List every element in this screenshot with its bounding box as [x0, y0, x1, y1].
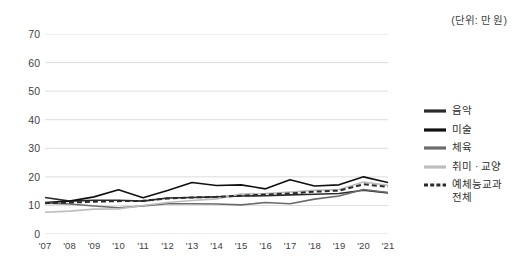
legend-swatch-icon [424, 161, 446, 173]
x-axis-tick-label: '21 [382, 240, 394, 251]
line-chart-svg [45, 34, 388, 234]
chart-legend: 음악미술체육취미 · 교양예체능교과 전체 [424, 104, 517, 209]
y-axis: 010203040506070 [0, 34, 40, 234]
legend-item-4[interactable]: 예체능교과 전체 [424, 178, 517, 203]
legend-label: 미술 [452, 123, 472, 136]
chart-root: (단위: 만 원) 010203040506070 '07'08'09'10'1… [0, 0, 517, 264]
y-axis-tick-label: 20 [0, 171, 40, 183]
plot-area [45, 34, 388, 234]
y-axis-tick-label: 30 [0, 142, 40, 154]
x-axis-tick-label: '15 [235, 240, 247, 251]
y-axis-tick-label: 60 [0, 57, 40, 69]
unit-caption: (단위: 만 원) [451, 12, 507, 27]
x-axis-tick-label: '18 [308, 240, 320, 251]
x-axis-tick-label: '12 [161, 240, 173, 251]
y-axis-tick-label: 70 [0, 28, 40, 40]
legend-swatch-icon [424, 179, 446, 191]
legend-item-0[interactable]: 음악 [424, 104, 517, 117]
x-axis-tick-label: '09 [88, 240, 100, 251]
x-axis-tick-label: '20 [357, 240, 369, 251]
legend-swatch-icon [424, 124, 446, 136]
legend-label: 체육 [452, 141, 472, 154]
x-axis-tick-label: '13 [186, 240, 198, 251]
legend-item-1[interactable]: 미술 [424, 123, 517, 136]
y-axis-tick-label: 0 [0, 228, 40, 240]
y-axis-tick-label: 10 [0, 199, 40, 211]
y-axis-tick-label: 40 [0, 114, 40, 126]
legend-label: 취미 · 교양 [452, 160, 501, 173]
legend-swatch-icon [424, 105, 446, 117]
legend-swatch-icon [424, 142, 446, 154]
legend-item-2[interactable]: 체육 [424, 141, 517, 154]
legend-label: 예체능교과 전체 [452, 178, 502, 203]
legend-item-3[interactable]: 취미 · 교양 [424, 160, 517, 173]
x-axis-tick-label: '10 [112, 240, 124, 251]
x-axis-tick-label: '11 [137, 240, 149, 251]
y-axis-tick-label: 50 [0, 85, 40, 97]
x-axis-tick-label: '08 [63, 240, 75, 251]
x-axis-tick-label: '14 [210, 240, 222, 251]
x-axis: '07'08'09'10'11'12'13'14'15'16'17'18'19'… [45, 238, 388, 256]
x-axis-tick-label: '16 [259, 240, 271, 251]
x-axis-tick-label: '17 [284, 240, 296, 251]
x-axis-tick-label: '19 [333, 240, 345, 251]
legend-label: 음악 [452, 104, 472, 117]
x-axis-tick-label: '07 [39, 240, 51, 251]
